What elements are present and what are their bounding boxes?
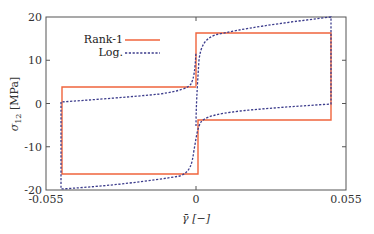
x-axis-title: γ̄ [−] <box>182 212 211 225</box>
y-axis-title-unit: [MPa] <box>8 77 21 114</box>
x-tick-label-zero: 0 <box>193 193 200 206</box>
legend: Rank-1 Log. <box>84 33 160 59</box>
y-tick-label-neg10: -10 <box>24 141 42 154</box>
legend-item-log: Log. <box>99 46 160 59</box>
y-tick-label-0: 0 <box>35 98 42 111</box>
y-axis-title-subscript: 12 <box>14 114 23 124</box>
legend-label-rank-1: Rank-1 <box>84 33 123 46</box>
legend-label-log: Log. <box>99 46 123 59</box>
chart: 20 10 0 -10 -20 -0.055 0 0.055 γ̄ [−] σ1… <box>0 0 374 234</box>
legend-item-rank-1: Rank-1 <box>84 33 160 46</box>
x-tick-label-min: -0.055 <box>28 193 63 206</box>
y-axis-title: σ12 [MPa] <box>8 77 23 132</box>
y-tick-label-10: 10 <box>28 54 42 67</box>
y-tick-label-20: 20 <box>28 11 42 24</box>
x-tick-label-max: 0.055 <box>330 193 362 206</box>
